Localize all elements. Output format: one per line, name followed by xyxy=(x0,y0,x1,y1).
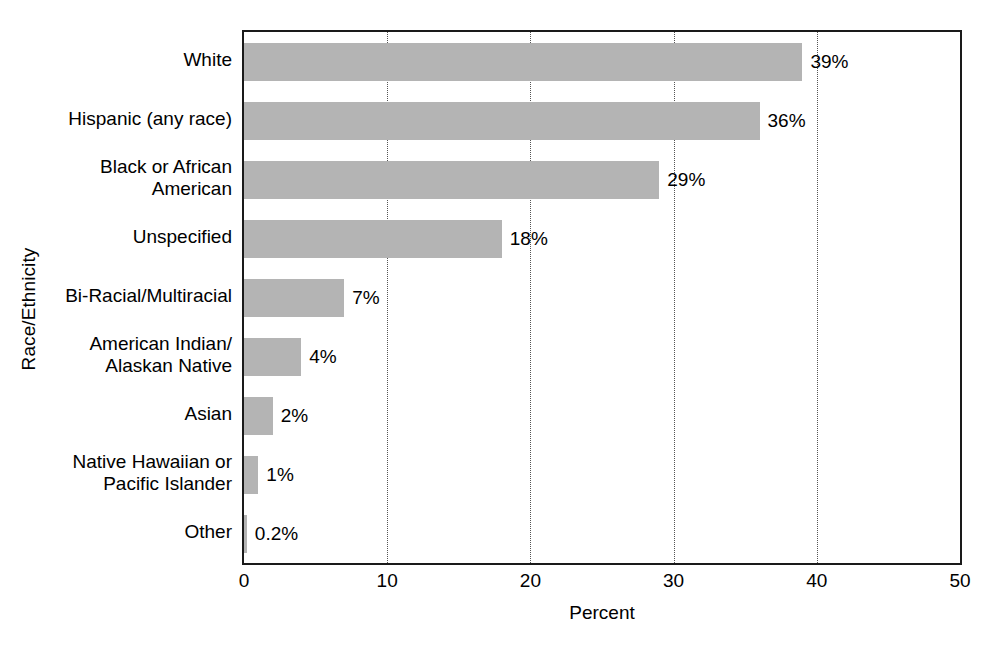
x-axis-title: Percent xyxy=(242,602,962,624)
plot-area: 39%36%29%18%7%4%2%1%0.2% xyxy=(242,30,962,565)
bar xyxy=(244,338,301,376)
bar xyxy=(244,161,659,199)
category-label: Asian xyxy=(0,403,232,425)
bar-value-label: 2% xyxy=(281,406,308,426)
x-tick-40: 40 xyxy=(806,570,827,592)
bar-value-label: 1% xyxy=(266,465,293,485)
bar xyxy=(244,515,247,553)
x-tick-50: 50 xyxy=(949,570,970,592)
bar xyxy=(244,43,802,81)
gridline-40 xyxy=(817,32,818,563)
x-tick-20: 20 xyxy=(520,570,541,592)
bar-value-label: 0.2% xyxy=(255,524,298,544)
bar-value-label: 36% xyxy=(768,111,806,131)
bar-value-label: 39% xyxy=(810,52,848,72)
bar xyxy=(244,220,502,258)
category-label: Other xyxy=(0,521,232,543)
bar xyxy=(244,102,760,140)
bar-value-label: 18% xyxy=(510,229,548,249)
category-label: American Indian/ Alaskan Native xyxy=(0,333,232,377)
race-ethnicity-bar-chart: Race/Ethnicity WhiteHispanic (any race)B… xyxy=(0,0,995,646)
x-tick-10: 10 xyxy=(377,570,398,592)
bar-value-label: 29% xyxy=(667,170,705,190)
x-tick-0: 0 xyxy=(239,570,250,592)
category-axis-labels: WhiteHispanic (any race)Black or African… xyxy=(0,30,232,565)
bar-value-label: 4% xyxy=(309,347,336,367)
category-label: White xyxy=(0,49,232,71)
x-axis-tick-labels: 01020304050 xyxy=(242,570,962,600)
bar xyxy=(244,279,344,317)
bar-value-label: 7% xyxy=(352,288,379,308)
bar xyxy=(244,456,258,494)
category-label: Hispanic (any race) xyxy=(0,108,232,130)
category-label: Bi-Racial/Multiracial xyxy=(0,285,232,307)
category-label: Black or African American xyxy=(0,156,232,200)
bar xyxy=(244,397,273,435)
x-tick-30: 30 xyxy=(663,570,684,592)
category-label: Unspecified xyxy=(0,226,232,248)
category-label: Native Hawaiian or Pacific Islander xyxy=(0,451,232,495)
plot-inner: 39%36%29%18%7%4%2%1%0.2% xyxy=(244,32,960,563)
